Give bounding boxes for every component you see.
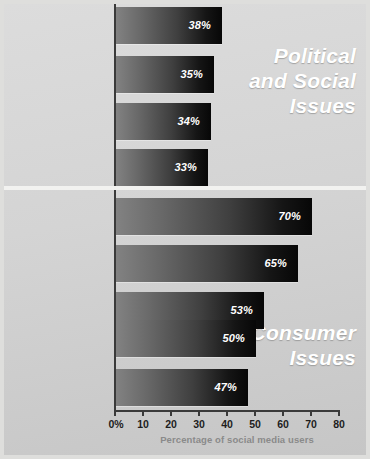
bar-chart-figure: Political and Social Issues Consumer Iss… [0, 0, 370, 459]
axis-tick [198, 410, 200, 416]
bar[interactable]: 70% [116, 198, 312, 235]
axis-tick [142, 410, 144, 416]
bar-value-label: 35% [180, 56, 203, 93]
axis-tick [310, 410, 312, 416]
bar[interactable]: 34% [116, 103, 211, 140]
axis-tick [226, 410, 228, 416]
bar[interactable]: 65% [116, 245, 298, 282]
bar-value-label: 50% [222, 320, 245, 357]
bar-value-label: 70% [278, 198, 301, 235]
section-divider [0, 186, 370, 190]
axis-tick [338, 410, 340, 416]
axis-tick [114, 410, 116, 416]
axis-tick-label: 80 [319, 418, 359, 430]
bar[interactable]: 33% [116, 149, 208, 186]
axis-tick [170, 410, 172, 416]
plot-area: “Like” or promote material on political … [0, 0, 370, 459]
bar-value-label: 33% [174, 149, 197, 186]
bar-value-label: 34% [177, 103, 200, 140]
axis-title: Percentage of social media users [0, 434, 370, 445]
bar[interactable]: 38% [116, 7, 222, 44]
category-axis-line [114, 3, 116, 412]
bar-value-label: 38% [188, 7, 211, 44]
bar[interactable]: 47% [116, 369, 248, 406]
bar[interactable]: 50% [116, 320, 256, 357]
bar-value-label: 47% [214, 369, 237, 406]
bar[interactable]: 35% [116, 56, 214, 93]
bar-value-label: 65% [264, 245, 287, 282]
axis-tick [254, 410, 256, 416]
axis-tick [282, 410, 284, 416]
